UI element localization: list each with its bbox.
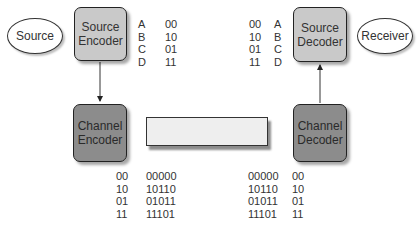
source-encoder-line2: Encoder (78, 34, 123, 48)
table-row: 0101011 (116, 195, 177, 208)
table-row: 0000000 (116, 170, 177, 183)
table-row: 1010110 (116, 183, 177, 196)
channel-decoder-box: Channel Decoder (293, 104, 347, 162)
source-code-table: A00 B10 C01 D11 (138, 18, 177, 68)
table-row: D11 (138, 56, 177, 69)
receiver-node: Receiver (357, 18, 413, 54)
channel-decode-table: 0000000 1011010 0101101 1110111 (248, 170, 304, 220)
table-row: 10B (249, 31, 282, 44)
channel-encoder-line1: Channel (78, 119, 123, 133)
channel-box (146, 117, 268, 146)
table-row: 1110111 (248, 208, 304, 221)
channel-decoder-line1: Channel (298, 119, 343, 133)
source-decoder-box: Source Decoder (293, 7, 347, 62)
table-row: C01 (138, 43, 177, 56)
source-encoder-box: Source Encoder (74, 7, 127, 61)
channel-encoder-box: Channel Encoder (73, 104, 127, 162)
table-row: 0101101 (248, 195, 304, 208)
receiver-label: Receiver (361, 29, 408, 43)
table-row: 0000000 (248, 170, 304, 183)
source-encoder-line1: Source (81, 20, 119, 34)
table-row: 00A (249, 18, 282, 31)
source-node: Source (7, 18, 63, 54)
channel-decoder-line2: Decoder (297, 133, 342, 147)
channel-encoder-line2: Encoder (78, 133, 123, 147)
table-row: 1011010 (248, 183, 304, 196)
table-row: B10 (138, 31, 177, 44)
table-row: 11D (249, 56, 282, 69)
table-row: A00 (138, 18, 177, 31)
source-decode-table: 00A 10B 01C 11D (249, 18, 282, 68)
source-decoder-line1: Source (301, 21, 339, 35)
table-row: 01C (249, 43, 282, 56)
table-row: 1111101 (116, 208, 177, 221)
channel-code-table: 0000000 1010110 0101011 1111101 (116, 170, 177, 220)
source-label: Source (16, 29, 54, 43)
source-decoder-line2: Decoder (297, 35, 342, 49)
